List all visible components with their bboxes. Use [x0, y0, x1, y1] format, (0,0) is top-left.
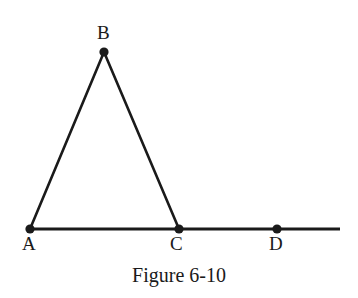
- point-label-d: D: [269, 234, 283, 253]
- figure-caption: Figure 6-10: [0, 264, 358, 286]
- point-label-a: A: [22, 234, 36, 253]
- segment-bc: [104, 52, 179, 229]
- point-label-b: B: [97, 23, 110, 42]
- segment-ab: [30, 52, 104, 229]
- point-b-marker: [99, 47, 108, 56]
- point-label-c: C: [170, 234, 183, 253]
- figure-container: A B C D Figure 6-10: [0, 0, 358, 298]
